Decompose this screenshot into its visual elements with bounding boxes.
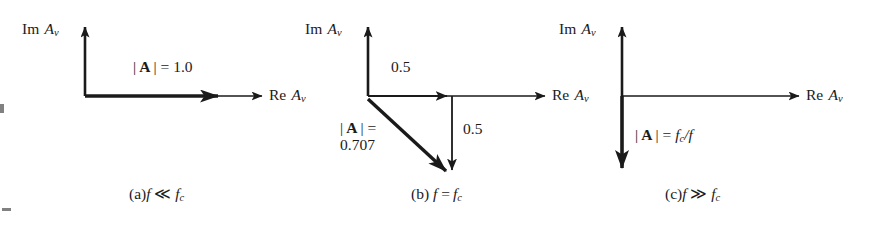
caption-b: (b) f = fc xyxy=(411,185,462,204)
caption-lhs-a: f xyxy=(146,185,150,202)
magnitude-label-c: | A | = fc/f xyxy=(635,126,693,145)
caption-prefix-a: (a) xyxy=(129,185,146,202)
im-sub-c: v xyxy=(591,27,596,38)
im-sub-b: v xyxy=(337,27,342,38)
magnitude-label-b: | A | =0.707 xyxy=(340,119,376,154)
mag-symbol-b: A xyxy=(346,119,357,136)
phasor-vector-b xyxy=(368,99,446,171)
mag-equals-b: | = xyxy=(361,119,377,136)
real-axis-label-c: Re Av xyxy=(806,86,843,105)
im-base-a: A xyxy=(45,20,54,37)
mag-symbol-a: A xyxy=(139,58,150,75)
caption-rhs-sub-c: c xyxy=(716,192,721,203)
imaginary-axis-label-b: Im Av xyxy=(305,20,342,39)
im-prefix-b: Im xyxy=(305,20,322,37)
magnitude-label-a: | A | = 1.0 xyxy=(133,58,193,75)
mag-bar-open-c: | xyxy=(635,126,638,143)
caption-prefix-c: (c) xyxy=(665,185,682,202)
mag-bar-open-a: | xyxy=(133,58,136,75)
re-sub-c: v xyxy=(838,93,843,104)
im-sub-a: v xyxy=(54,27,59,38)
re-prefix-c: Re xyxy=(806,86,823,103)
re-base-c: A xyxy=(829,86,838,103)
mag-value-a: 1.0 xyxy=(173,58,192,75)
page-edge-artifact-bottom xyxy=(2,208,11,211)
caption-rhs-sub-b: c xyxy=(457,192,462,203)
caption-c: (c)f ≫ fc xyxy=(665,185,720,204)
imaginary-component-label-b: 0.5 xyxy=(463,120,482,137)
mag-equals-a: | = xyxy=(154,58,170,75)
mag-equals-c: | = xyxy=(656,126,672,143)
im-base-b: A xyxy=(328,20,337,37)
caption-relation-b: = xyxy=(441,185,450,202)
im-prefix-a: Im xyxy=(22,20,39,37)
phasor-panel-c: Im Av Re Av | A | = fc/f (c)f ≫ fc xyxy=(537,0,827,231)
mag-value-tail-c: /f xyxy=(684,126,693,143)
mag-value-b: 0.707 xyxy=(340,136,376,153)
caption-lhs-c: f xyxy=(682,185,686,202)
caption-rhs-sub-a: c xyxy=(180,192,185,203)
caption-relation-a: ≪ xyxy=(154,185,171,202)
phasor-panel-a: Im Av Re Av | A | = 1.0 (a)f ≪ fc xyxy=(0,0,290,231)
imaginary-axis-label-a: Im Av xyxy=(22,20,59,39)
mag-symbol-c: A xyxy=(641,126,652,143)
phasor-panel-b: Im Av Re Av 0.5 0.5 | A | =0.707 (b) f =… xyxy=(283,0,573,231)
im-base-c: A xyxy=(582,20,591,37)
imaginary-axis-label-c: Im Av xyxy=(559,20,596,39)
page-edge-artifact-top xyxy=(0,104,4,113)
mag-bar-open-b: | xyxy=(340,119,343,136)
caption-a: (a)f ≪ fc xyxy=(129,185,184,204)
caption-prefix-b: (b) xyxy=(411,185,429,202)
im-prefix-c: Im xyxy=(559,20,576,37)
real-component-label-b: 0.5 xyxy=(391,58,410,75)
caption-relation-c: ≫ xyxy=(690,185,707,202)
caption-lhs-b: f xyxy=(433,185,437,202)
phasor-diagram-figure: Im Av Re Av | A | = 1.0 (a)f ≪ fc xyxy=(0,0,871,231)
